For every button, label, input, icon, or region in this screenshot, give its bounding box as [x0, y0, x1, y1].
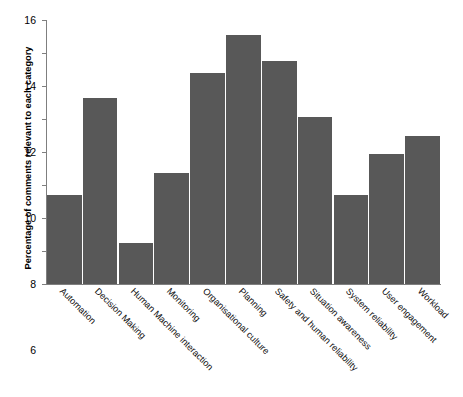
bar	[119, 243, 154, 284]
bar	[298, 117, 333, 284]
y-tick-mark: 16	[42, 20, 46, 21]
bar	[154, 173, 189, 284]
bar-chart-figure: Percentage of comments relevant to each …	[0, 0, 463, 397]
bar	[262, 61, 297, 284]
y-tick-mark: 0	[42, 284, 46, 285]
y-axis-title: Percentage of comments relevant to each …	[23, 28, 33, 288]
bar	[83, 98, 118, 284]
bar	[369, 154, 404, 284]
y-tick-label: 10	[24, 212, 36, 224]
x-axis-label: Automation	[58, 286, 98, 326]
x-axis-label: Workload	[416, 286, 450, 320]
x-axis-label: Monitoring	[165, 286, 202, 323]
x-axis-label: Organisational culture	[201, 286, 271, 356]
y-tick-label: 8	[30, 278, 36, 290]
bars-layer	[47, 20, 441, 284]
x-axis-label: Situation awareness	[308, 286, 374, 352]
y-tick-mark: 12	[42, 86, 46, 87]
y-tick-mark: 10	[42, 119, 46, 120]
y-tick-label: 12	[24, 146, 36, 158]
y-tick-mark: 6	[42, 185, 46, 186]
plot-area: 0246810121416	[46, 20, 441, 285]
y-tick-mark: 8	[42, 152, 46, 153]
x-axis-label: Planning	[237, 286, 269, 318]
bar	[405, 136, 440, 285]
y-tick-mark: 2	[42, 251, 46, 252]
x-axis-category-labels: AutomationDecision MakingHuman Machine i…	[46, 286, 446, 397]
y-tick-mark: 14	[42, 53, 46, 54]
y-tick-label: 6	[30, 344, 36, 356]
bar	[334, 195, 369, 284]
y-tick-label: 14	[24, 80, 36, 92]
y-tick-mark: 4	[42, 218, 46, 219]
bar	[190, 73, 225, 284]
y-tick-label: 16	[24, 14, 36, 26]
bar	[47, 195, 82, 284]
bar	[226, 35, 261, 284]
